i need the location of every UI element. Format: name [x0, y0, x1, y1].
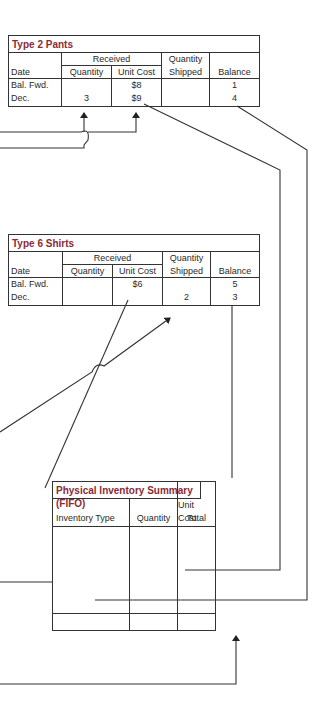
- pants-header-shipped-top: Quantity: [162, 54, 209, 65]
- shirts-row1-balance: 5: [211, 279, 259, 290]
- shirts-row1-date: Bal. Fwd.: [11, 279, 49, 290]
- summary-body: [52, 481, 216, 631]
- pants-header-shipped-bottom: Shipped: [162, 67, 209, 78]
- shirts-header-date: Date: [11, 266, 30, 277]
- shirts-stock-card: Type 6 Shirts Date Received Quantity Uni…: [8, 234, 260, 306]
- shirts-header-received: Received: [63, 253, 162, 264]
- pants-header-balance: Balance: [210, 67, 259, 78]
- pants-header-quantity: Quantity: [62, 67, 111, 78]
- pants-header-date: Date: [11, 67, 30, 78]
- shirts-row2-balance: 3: [211, 292, 259, 303]
- shirts-header-shipped-top: Quantity: [163, 253, 210, 264]
- shirts-header-balance: Balance: [211, 266, 259, 277]
- pants-header-unit-cost: Unit Cost: [112, 67, 161, 78]
- shirts-row2-date: Dec.: [11, 292, 30, 303]
- pants-row1-unit-cost: $8: [112, 80, 161, 91]
- shirts-header-unit-cost: Unit Cost: [113, 266, 162, 277]
- shirts-row1-unit-cost: $6: [113, 279, 162, 290]
- pants-row1-balance: 1: [210, 80, 259, 91]
- pants-row1-date: Bal. Fwd.: [11, 80, 49, 91]
- pants-stock-card: Type 2 Pants Date Received Quantity Unit…: [8, 35, 260, 107]
- pants-row2-unit-cost: $9: [112, 93, 161, 104]
- pants-header-received: Received: [62, 54, 161, 65]
- pants-row2-balance: 4: [210, 93, 259, 104]
- shirts-header-quantity: Quantity: [63, 266, 112, 277]
- shirts-header-shipped-bottom: Shipped: [163, 266, 210, 277]
- pants-card-title: Type 2 Pants: [9, 36, 259, 53]
- pants-row2-quantity: 3: [62, 93, 111, 104]
- pants-row2-date: Dec.: [11, 93, 30, 104]
- shirts-card-title: Type 6 Shirts: [9, 235, 259, 252]
- shirts-row2-shipped: 2: [163, 292, 210, 303]
